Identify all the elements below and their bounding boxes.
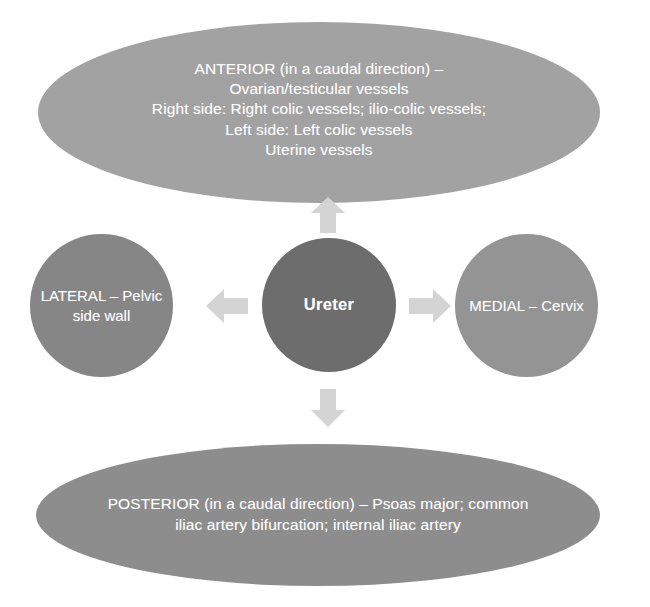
anterior-relations-ellipse: ANTERIOR (in a caudal direction) – Ovari…: [38, 22, 600, 203]
anterior-relations-label: ANTERIOR (in a caudal direction) – Ovari…: [38, 59, 600, 160]
posterior-relations-label: POSTERIOR (in a caudal direction) – Psoa…: [36, 494, 600, 534]
posterior-relations-ellipse: POSTERIOR (in a caudal direction) – Psoa…: [36, 444, 600, 586]
ureter-center-circle: Ureter: [262, 238, 396, 372]
arrow-down-icon: [310, 388, 346, 428]
arrow-up-icon: [310, 196, 346, 234]
lateral-relation-label: LATERAL – Pelvic side wall: [30, 286, 173, 325]
arrow-right-icon: [408, 288, 452, 324]
medial-relation-label: MEDIAL – Cervix: [455, 296, 598, 316]
ureter-center-label: Ureter: [262, 294, 396, 315]
ureter-relations-diagram: ANTERIOR (in a caudal direction) – Ovari…: [0, 0, 650, 607]
medial-relation-circle: MEDIAL – Cervix: [455, 234, 598, 377]
arrow-left-icon: [205, 288, 249, 324]
lateral-relation-circle: LATERAL – Pelvic side wall: [30, 234, 173, 377]
